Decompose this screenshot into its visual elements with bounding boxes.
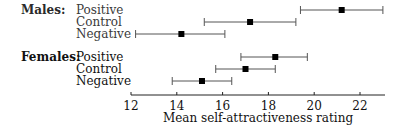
error-bar bbox=[216, 65, 276, 73]
error-bar bbox=[300, 6, 382, 14]
error-bar bbox=[204, 18, 296, 26]
mean-marker bbox=[339, 7, 345, 13]
error-bar bbox=[172, 77, 232, 85]
error-bar bbox=[241, 53, 307, 61]
mean-marker bbox=[272, 54, 278, 60]
x-axis bbox=[131, 92, 385, 95]
mean-marker bbox=[247, 19, 253, 25]
x-axis-title: Mean self-attractiveness rating bbox=[163, 112, 353, 124]
mean-marker bbox=[199, 78, 205, 84]
mean-marker bbox=[178, 31, 184, 37]
mean-marker bbox=[243, 66, 249, 72]
error-bar bbox=[136, 30, 225, 38]
